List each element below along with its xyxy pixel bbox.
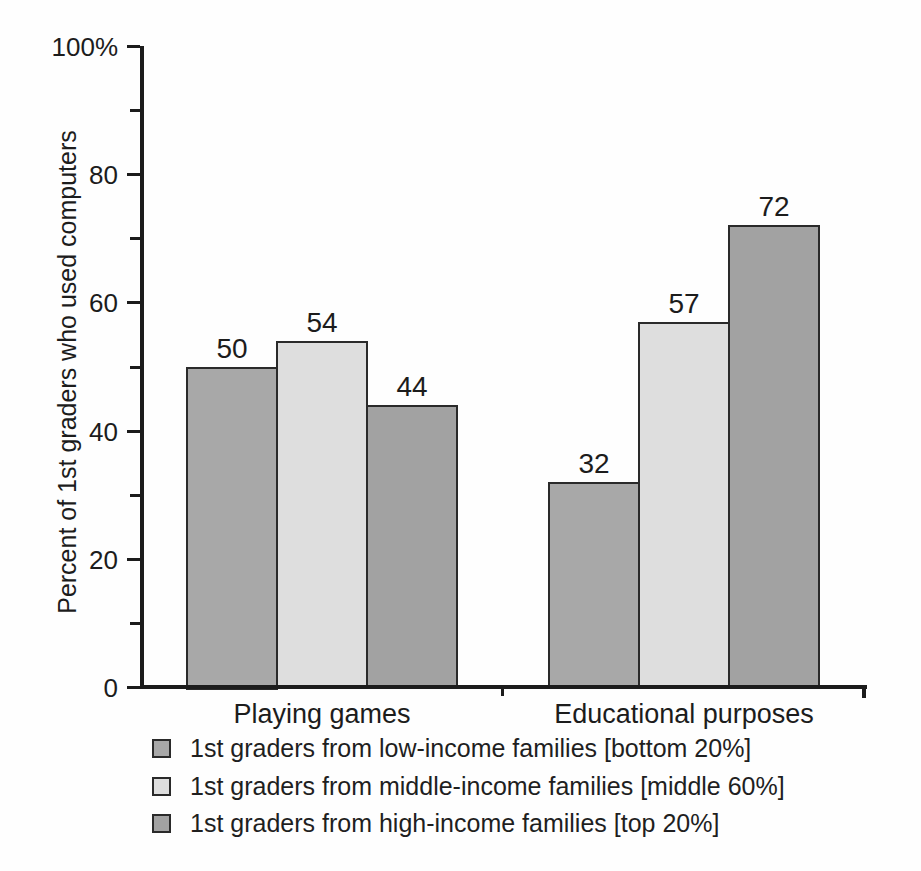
bar-playing-games-series-1 (276, 341, 368, 689)
legend-swatch-middle-income (152, 777, 171, 796)
legend-swatch-low-income (152, 739, 171, 758)
legend-item-high-income: 1st graders from high-income families [t… (152, 812, 719, 834)
legend-item-middle-income: 1st graders from middle-income families … (152, 775, 785, 797)
x-category-label: Playing games (162, 699, 482, 729)
bar-value-label: 54 (276, 308, 368, 338)
bar-value-label: 32 (548, 449, 640, 479)
bar-educational-purposes-series-2 (728, 225, 820, 689)
y-axis-major-tick (127, 558, 140, 561)
bar-value-label: 50 (186, 334, 278, 364)
legend-item-low-income: 1st graders from low-income families [bo… (152, 737, 751, 759)
y-axis-minor-tick (130, 366, 140, 369)
bar-playing-games-series-2 (366, 405, 458, 689)
y-axis-tick-label: 0 (15, 675, 118, 701)
y-axis-major-tick (127, 686, 140, 689)
x-axis-mid-tick (501, 687, 504, 696)
y-axis-minor-tick (130, 622, 140, 625)
bar-educational-purposes-series-1 (638, 322, 730, 689)
bar-educational-purposes-series-0 (548, 482, 640, 689)
x-axis-end-tick (862, 685, 866, 698)
y-axis-minor-tick (130, 109, 140, 112)
y-axis-major-tick (127, 45, 140, 48)
y-axis-minor-tick (130, 237, 140, 240)
x-category-label: Educational purposes (524, 699, 844, 729)
y-axis-tick-label: 40 (15, 419, 118, 445)
bar-value-label: 72 (728, 192, 820, 222)
y-axis-tick-label: 20 (15, 547, 118, 573)
y-axis-major-tick (127, 173, 140, 176)
legend-label-middle-income: 1st graders from middle-income families … (190, 773, 785, 799)
y-axis-major-tick (127, 301, 140, 304)
y-axis-title: Percent of 1st graders who used computer… (51, 52, 83, 692)
y-axis-tick-label: 100% (15, 34, 118, 60)
legend-label-low-income: 1st graders from low-income families [bo… (190, 735, 751, 761)
y-axis-major-tick (127, 430, 140, 433)
bar-value-label: 44 (366, 372, 458, 402)
y-axis-tick-label: 60 (15, 290, 118, 316)
legend-swatch-high-income (152, 814, 171, 833)
bar-value-label: 57 (638, 289, 730, 319)
legend-label-high-income: 1st graders from high-income families [t… (190, 810, 719, 836)
bar-chart-figure: Percent of 1st graders who used computer… (0, 0, 921, 871)
y-axis-line (140, 46, 144, 689)
y-axis-minor-tick (130, 494, 140, 497)
bar-playing-games-series-0 (186, 367, 278, 690)
y-axis-tick-label: 80 (15, 162, 118, 188)
